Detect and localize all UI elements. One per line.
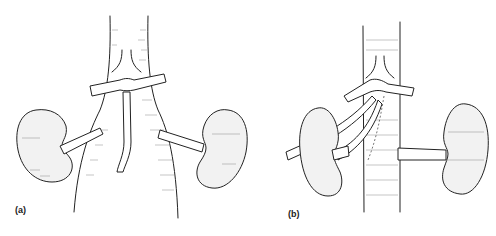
panel-label-a: (a) xyxy=(15,205,26,215)
right-kidney-b xyxy=(398,104,488,194)
panel-a: (a) xyxy=(0,0,248,236)
right-kidney-a xyxy=(158,110,247,189)
descending-vessel-a xyxy=(117,92,131,172)
panel-b: (b) xyxy=(248,0,496,236)
left-kidney-a xyxy=(17,110,103,182)
panel-label-b: (b) xyxy=(288,209,300,219)
left-kidney-b xyxy=(300,108,349,196)
central-vessel-trunk-b xyxy=(363,22,400,212)
kidney-diagram-a xyxy=(0,0,248,236)
crossing-vessel-b xyxy=(344,79,414,102)
kidney-diagram-b xyxy=(248,0,496,236)
